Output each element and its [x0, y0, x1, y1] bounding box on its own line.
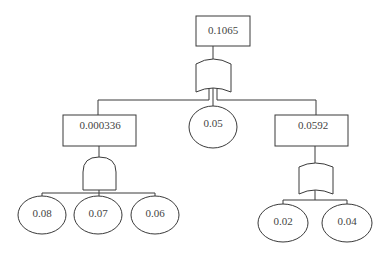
basic-event-label: 0.02	[273, 215, 292, 227]
intermediate-event-label: 0.000336	[79, 119, 121, 131]
basic-event: 0.02	[258, 204, 308, 242]
top-event-label: 0.1065	[208, 24, 239, 36]
intermediate-event-left: 0.000336	[63, 115, 136, 146]
top-event: 0.1065	[196, 16, 250, 46]
basic-event-label: 0.05	[203, 117, 223, 129]
basic-event-middle: 0.05	[189, 106, 237, 148]
connector	[217, 100, 316, 115]
basic-event: 0.04	[322, 204, 372, 242]
intermediate-event-right: 0.0592	[275, 115, 348, 146]
basic-event-label: 0.06	[145, 207, 165, 219]
basic-event-label: 0.07	[88, 207, 108, 219]
basic-event-label: 0.08	[32, 207, 52, 219]
connector	[98, 100, 209, 115]
fault-tree-diagram: 0.1065 0.000336 0.08 0.07 0.06 0.05 0.05…	[0, 0, 387, 260]
basic-event: 0.08	[18, 196, 66, 234]
or-gate-icon	[299, 163, 333, 194]
basic-event: 0.06	[131, 196, 179, 234]
or-gate-icon	[196, 59, 231, 92]
intermediate-event-label: 0.0592	[298, 119, 328, 131]
basic-event-label: 0.04	[337, 215, 357, 227]
basic-event: 0.07	[74, 196, 122, 234]
and-gate-icon	[83, 157, 116, 190]
